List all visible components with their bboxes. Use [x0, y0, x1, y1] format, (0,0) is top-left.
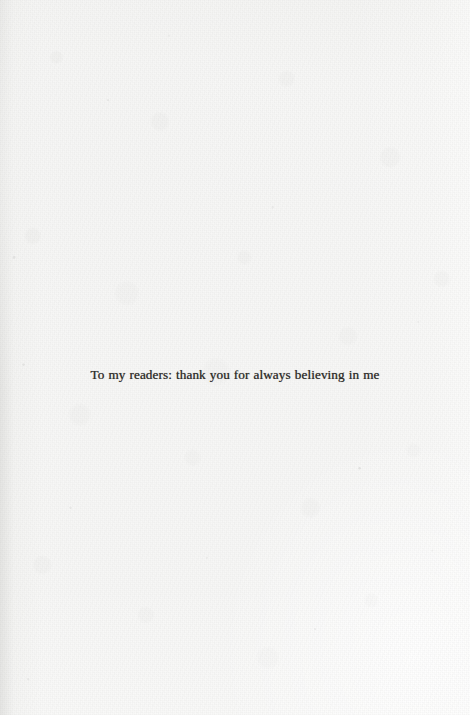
dedication-text: To my readers: thank you for always beli… — [90, 368, 379, 381]
paper-mottle-texture — [0, 0, 470, 715]
paper-grain-texture — [0, 0, 470, 715]
paper-speck-texture — [0, 0, 470, 715]
dedication-block: To my readers: thank you for always beli… — [0, 366, 470, 382]
dedication-page: To my readers: thank you for always beli… — [0, 0, 470, 715]
